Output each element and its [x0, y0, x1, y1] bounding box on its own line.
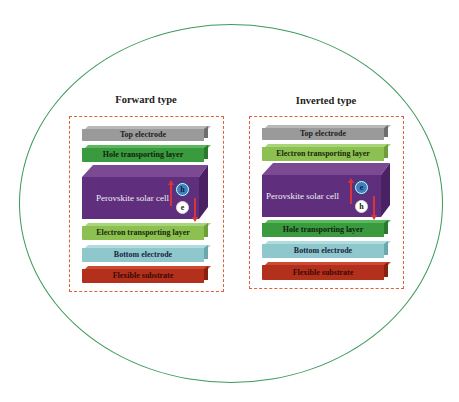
inverted-layer-electron-transporting: Electron transporting layer [262, 144, 388, 161]
diagram-canvas: Forward type Top electrode Hole transpor… [0, 0, 459, 402]
layer-label: Electron transporting layer [262, 147, 384, 161]
layer-label: Bottom electrode [262, 244, 384, 258]
forward-layer-bottom-electrode: Bottom electrode [82, 245, 208, 262]
forward-layer-flexible-substrate: Flexible substrate [82, 266, 208, 283]
inverted-type-title: Inverted type [246, 95, 406, 106]
arrow-down-icon [373, 196, 375, 216]
layer-label: Flexible substrate [262, 265, 384, 280]
forward-layer-perovskite: Perovskite solar cell [82, 165, 208, 219]
layer-top-face [82, 165, 208, 177]
arrow-down-icon [194, 198, 196, 218]
arrow-up-icon [350, 182, 352, 204]
hole-carrier-icon: h [176, 183, 189, 196]
layer-label: Hole transporting layer [262, 223, 384, 237]
inverted-layer-bottom-electrode: Bottom electrode [262, 241, 388, 258]
arrow-up-icon [170, 184, 172, 206]
layer-top-face [262, 163, 390, 175]
layer-label: Flexible substrate [82, 269, 204, 283]
forward-layer-top-electrode: Top electrode [82, 126, 208, 141]
layer-label: Bottom electrode [82, 248, 204, 262]
layer-label: Electron transporting layer [82, 226, 204, 240]
forward-layer-hole-transporting: Hole transporting layer [82, 145, 208, 162]
layer-label: Top electrode [262, 128, 384, 140]
forward-layer-electron-transporting: Electron transporting layer [82, 223, 208, 240]
forward-type-title: Forward type [66, 94, 226, 105]
layer-label: Top electrode [82, 129, 204, 141]
layer-label: Hole transporting layer [82, 148, 204, 162]
hole-carrier-icon: h [355, 200, 368, 213]
inverted-layer-hole-transporting: Hole transporting layer [262, 220, 388, 237]
electron-carrier-icon: e [176, 201, 189, 214]
inverted-layer-perovskite: Perovskite solar cell [262, 163, 390, 217]
inverted-layer-flexible-substrate: Flexible substrate [262, 262, 388, 280]
inverted-layer-top-electrode: Top electrode [262, 125, 388, 140]
electron-carrier-icon: e [355, 181, 368, 194]
